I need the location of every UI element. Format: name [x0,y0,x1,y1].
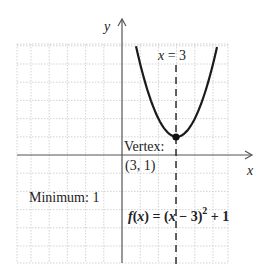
vertex-point [172,133,179,140]
x-axis-label: x [246,163,254,178]
axis-of-symmetry-label: x = 3 [157,48,186,63]
minimum-label: Minimum: 1 [29,190,99,205]
vertex-label: Vertex: [124,139,164,154]
vertex-coords-label: (3, 1) [125,158,156,174]
parabola-graph: y x x = 3 Vertex: (3, 1) Minimum: 1 f(x)… [0,0,275,270]
y-axis-label: y [102,19,111,34]
function-equation: f(x) = (x − 3)2 + 1 [128,205,229,225]
